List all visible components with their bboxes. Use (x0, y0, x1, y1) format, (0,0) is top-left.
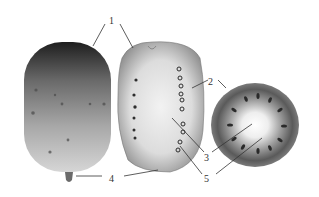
label-5: 5 (204, 173, 209, 184)
label-1: 1 (109, 15, 114, 26)
whole-fruit (24, 42, 111, 182)
longitudinal-section (118, 42, 204, 172)
stem (65, 172, 73, 182)
kiwifruit-figure: 1 2 3 4 5 (0, 0, 319, 197)
label-2: 2 (208, 76, 213, 87)
cross-section (211, 83, 299, 167)
label-4: 4 (109, 173, 114, 184)
label-3: 3 (204, 152, 209, 163)
